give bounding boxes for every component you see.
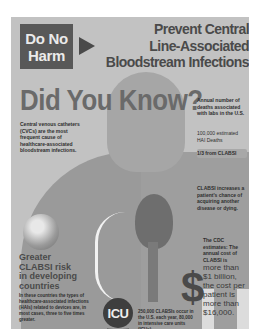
globe-icon — [23, 214, 59, 250]
greater-risk-heading: Greater CLABSI risk in developing countr… — [19, 253, 77, 291]
badge-line-1: Do No — [20, 30, 73, 47]
cdc-text: The CDC estimates: The annual cost of CL… — [203, 237, 249, 263]
developing-countries-detail: In these countries the types of healthca… — [19, 293, 89, 323]
title-line: Line-Associated — [96, 38, 249, 55]
page-title: Prevent Central Line-Associated Bloodstr… — [96, 21, 249, 71]
title-line: Bloodstream Infections — [96, 54, 249, 71]
arrow-right-icon — [79, 37, 95, 55]
risk-text: CLABSI increases a patient's chance of a… — [197, 185, 247, 211]
icu-stack-icon — [107, 325, 129, 329]
cost-block: The CDC estimates: The annual cost of CL… — [203, 237, 249, 317]
do-no-harm-badge: Do No Harm — [20, 24, 73, 69]
vessel-illustration — [148, 242, 158, 302]
cvc-text: Central venous catheters (CVCs) are the … — [20, 121, 86, 154]
icu-badge: ICU — [103, 298, 133, 328]
annual-deaths-label: Annual number of deaths associated with … — [197, 97, 247, 117]
greater-line: countries — [19, 282, 77, 292]
clabsi-fraction: 1/3 from CLABSI — [197, 149, 247, 158]
deaths-stat: 100,000 estimated HAI Deaths — [197, 130, 247, 143]
infographic-poster: Do No Harm Prevent Central Line-Associat… — [11, 17, 249, 329]
dollar-icon: $ — [181, 267, 204, 309]
cost-text: more than $1 billion, the cost per patie… — [203, 263, 249, 317]
catheter-line-icon — [95, 212, 128, 302]
heart-icon — [135, 194, 173, 249]
did-you-know-heading: Did You Know? — [20, 83, 203, 117]
icu-text: 250,000 CLABSIs occur in the U.S. each y… — [138, 309, 194, 329]
badge-line-2: Harm — [20, 47, 73, 64]
title-line: Prevent Central — [96, 21, 249, 38]
